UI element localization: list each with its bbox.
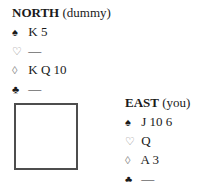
north-clubs-cards: — xyxy=(28,81,41,96)
east-clubs-row: ♣ — xyxy=(125,169,190,182)
diamond-icon: ◊ xyxy=(125,151,138,170)
spade-icon: ♠ xyxy=(12,23,25,42)
north-role: (dummy) xyxy=(62,5,110,20)
east-hearts-cards: Q xyxy=(141,133,150,148)
north-name: NORTH xyxy=(12,5,59,20)
north-hand: NORTH (dummy) ♠ K 5 ♡ — ◊ K Q 10 ♣ — xyxy=(12,4,111,98)
east-hand: EAST (you) ♠ J 10 6 ♡ Q ◊ A 3 ♣ — xyxy=(125,94,190,182)
club-icon: ♣ xyxy=(125,170,138,182)
card-table-box xyxy=(14,103,78,170)
east-name: EAST xyxy=(125,95,159,110)
north-header: NORTH (dummy) xyxy=(12,4,111,22)
north-hearts-row: ♡ — xyxy=(12,41,111,60)
east-clubs-cards: — xyxy=(141,171,154,182)
east-role: (you) xyxy=(162,95,190,110)
spade-icon: ♠ xyxy=(125,113,138,132)
east-diamonds-row: ◊ A 3 xyxy=(125,150,190,169)
north-clubs-row: ♣ — xyxy=(12,79,111,98)
north-spades-row: ♠ K 5 xyxy=(12,22,111,41)
north-diamonds-cards: K Q 10 xyxy=(28,62,66,77)
east-spades-row: ♠ J 10 6 xyxy=(125,112,190,131)
diamond-icon: ◊ xyxy=(12,61,25,80)
heart-icon: ♡ xyxy=(12,42,25,61)
east-spades-cards: J 10 6 xyxy=(141,114,172,129)
heart-icon: ♡ xyxy=(125,132,138,151)
east-hearts-row: ♡ Q xyxy=(125,131,190,150)
east-diamonds-cards: A 3 xyxy=(141,152,159,167)
north-spades-cards: K 5 xyxy=(28,24,47,39)
club-icon: ♣ xyxy=(12,80,25,99)
north-diamonds-row: ◊ K Q 10 xyxy=(12,60,111,79)
north-hearts-cards: — xyxy=(28,43,41,58)
east-header: EAST (you) xyxy=(125,94,190,112)
